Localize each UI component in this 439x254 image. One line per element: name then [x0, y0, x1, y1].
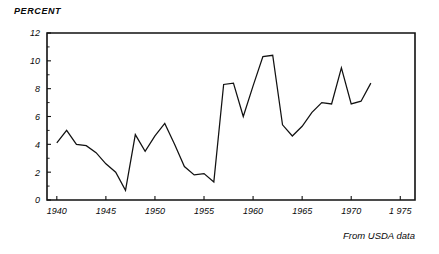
x-tick-label-1965: 1965 — [292, 206, 313, 216]
x-axis-tick-labels: 19401945195019551960196519701 975 — [47, 206, 413, 216]
x-tick-label-1945: 1945 — [96, 206, 117, 216]
y-axis-tick-labels: 024681012 — [30, 28, 40, 205]
y-axis-title: PERCENT — [14, 6, 61, 16]
y-tick-label-8: 8 — [35, 84, 40, 94]
x-tick-label-1960: 1960 — [243, 206, 263, 216]
source-annotation: From USDA data — [343, 230, 415, 241]
x-tick-label-1955: 1955 — [194, 206, 215, 216]
y-tick-label-2: 2 — [34, 168, 40, 178]
line-chart-plot: 024681012 19401945195019551960196519701 … — [0, 0, 439, 254]
data-series-line — [57, 55, 371, 190]
x-tick-label-1940: 1940 — [47, 206, 67, 216]
chart-axes — [47, 33, 415, 200]
y-tick-label-6: 6 — [35, 112, 40, 122]
x-tick-label-1970: 1970 — [341, 206, 361, 216]
y-tick-label-12: 12 — [30, 28, 40, 38]
plot-frame-border — [47, 33, 415, 200]
y-tick-label-0: 0 — [35, 195, 40, 205]
y-tick-label-10: 10 — [30, 56, 40, 66]
y-tick-label-4: 4 — [35, 140, 40, 150]
x-tick-label-1950: 1950 — [145, 206, 165, 216]
chart-figure: PERCENT 024681012 1940194519501955196019… — [0, 0, 439, 254]
x-tick-label-1975: 1 975 — [389, 206, 413, 216]
